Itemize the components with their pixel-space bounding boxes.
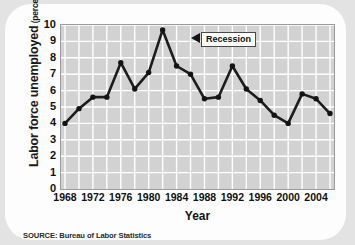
x-tick-label: 1968 [53,191,76,204]
x-tick-label: 1980 [137,191,160,204]
data-point [272,113,277,118]
y-tick-label: 7 [50,68,56,79]
x-tick-label: 2000 [276,191,299,204]
data-point [188,72,193,77]
y-tick-label: 3 [50,133,56,144]
data-point [132,86,137,91]
y-tick-label: 10 [44,19,56,30]
x-axis-tick-labels: 1968197219761980198419881992199620002004 [60,191,335,207]
data-point [146,70,151,75]
y-axis-tick-labels: 012345678910 [38,18,56,190]
data-point [299,91,304,96]
x-tick-label: 1984 [165,191,188,204]
y-tick-label: 8 [50,51,56,62]
horizontal-gridlines [61,25,334,173]
y-tick-label: 9 [50,35,56,46]
chart-svg [61,25,334,189]
y-tick-label: 5 [50,101,56,112]
data-point [258,98,263,103]
unemployment-line [65,30,330,123]
x-axis-title: Year [60,209,335,223]
data-point [174,63,179,68]
y-tick-label: 1 [50,166,56,177]
source-note: SOURCE: Bureau of Labor Statistics [23,231,151,240]
data-point [313,96,318,101]
x-tick-label: 1988 [193,191,216,204]
data-point [160,27,165,32]
data-point [230,63,235,68]
y-tick-label: 4 [50,117,56,128]
data-point [285,121,290,126]
x-tick-label: 2004 [304,191,327,204]
data-point [118,60,123,65]
data-point [327,111,332,116]
x-tick-label: 1996 [249,191,272,204]
data-point [90,94,95,99]
data-point [62,121,67,126]
data-point [104,94,109,99]
y-tick-label: 6 [50,84,56,95]
data-point [216,94,221,99]
x-tick-label: 1992 [221,191,244,204]
data-point [202,96,207,101]
plot-area [60,24,335,190]
data-point [244,86,249,91]
chart-card: Labor force unemployed (percentage) 0123… [5,4,346,240]
data-point [76,106,81,111]
x-tick-label: 1976 [109,191,132,204]
x-tick-label: 1972 [81,191,104,204]
y-tick-label: 2 [50,150,56,161]
